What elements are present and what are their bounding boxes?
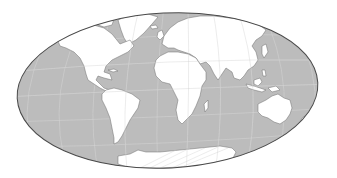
map-canvas: [0, 0, 337, 178]
land-philippines: [262, 70, 266, 76]
world-map: World map (Mollweide-style equal-area pr…: [0, 0, 337, 178]
